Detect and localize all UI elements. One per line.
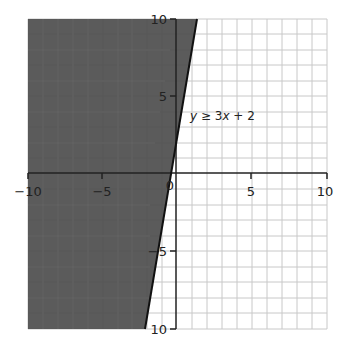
x-tick-label: 0	[166, 178, 174, 193]
y-tick-label: −5	[148, 244, 167, 259]
x-tick-label: 10	[317, 184, 334, 199]
y-tick-label: 5	[159, 89, 167, 104]
inequality-label: y ≥ 3x + 2	[189, 109, 255, 123]
x-tick-label: −5	[92, 184, 111, 199]
x-tick-label: 5	[247, 184, 255, 199]
inequality-graph: −10 −5 0 5 10 10 5 −5 10 y ≥ 3x + 2	[0, 0, 347, 349]
x-tick-label: −10	[14, 184, 41, 199]
y-tick-label: 10	[150, 322, 167, 337]
y-tick-label: 10	[150, 12, 167, 27]
